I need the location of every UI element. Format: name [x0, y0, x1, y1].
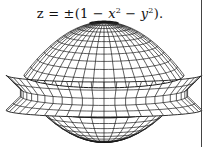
column-rule — [201, 0, 202, 147]
wireframe-surface-figure — [0, 0, 212, 158]
upper-dome-mesh — [24, 21, 184, 87]
